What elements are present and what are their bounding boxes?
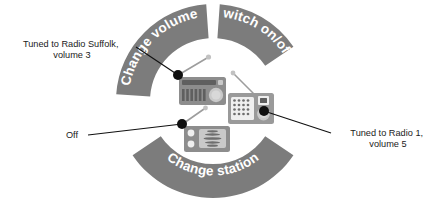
radio-icon-radio1 — [228, 71, 274, 124]
state-node-radio1[interactable] — [259, 106, 269, 116]
leader-line-off — [88, 124, 182, 135]
radio-icon-off — [184, 106, 230, 152]
radio-state-diagram: Change volume Switch on/off Change stati… — [0, 0, 427, 202]
callout-label-off: Off — [66, 130, 79, 140]
radio-icon-suffolk — [179, 54, 226, 105]
state-node-off[interactable] — [177, 119, 187, 129]
diagram-canvas: Change volume Switch on/off Change stati… — [0, 0, 427, 202]
callout-label-suffolk: Tuned to Radio Suffolk, volume 3 — [23, 39, 121, 60]
callout-label-radio1: Tuned to Radio 1, volume 5 — [350, 128, 425, 149]
leader-line-radio1 — [264, 111, 331, 133]
state-node-suffolk[interactable] — [173, 70, 183, 80]
